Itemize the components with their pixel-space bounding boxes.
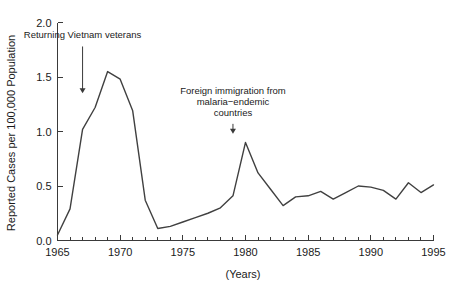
annotation-arrow-head-foreign-immigration bbox=[230, 129, 236, 134]
annotation-foreign-immigration: Foreign immigration frommalaria−endemicc… bbox=[180, 85, 286, 134]
x-axis-ticks bbox=[58, 235, 434, 241]
y-axis-tick-labels: 0.00.51.01.52.0 bbox=[36, 17, 51, 247]
malaria-incidence-line-chart: 0.00.51.01.52.0 196519701975198019851990… bbox=[0, 0, 457, 294]
x-tick-label-1990: 1990 bbox=[359, 246, 383, 258]
y-axis-ticks bbox=[58, 23, 63, 241]
x-axis-tick-labels: 1965197019751980198519901995 bbox=[45, 246, 445, 258]
x-tick-label-1980: 1980 bbox=[233, 246, 257, 258]
x-tick-label-1970: 1970 bbox=[108, 246, 132, 258]
annotation-label-foreign-immigration-line-2: countries bbox=[214, 107, 253, 118]
annotations: Returning Vietnam veteransForeign immigr… bbox=[24, 29, 286, 133]
x-tick-label-1995: 1995 bbox=[421, 246, 445, 258]
x-tick-label-1965: 1965 bbox=[45, 246, 69, 258]
x-tick-label-1985: 1985 bbox=[296, 246, 320, 258]
y-tick-label-0.5: 0.5 bbox=[36, 180, 51, 192]
annotation-label-vietnam-veterans-line-0: Returning Vietnam veterans bbox=[24, 29, 142, 40]
axes bbox=[58, 23, 434, 241]
x-axis-title: (Years) bbox=[225, 268, 260, 280]
y-axis-title: Reported Cases per 100,000 Population bbox=[5, 35, 17, 231]
chart-figure: 0.00.51.01.52.0 196519701975198019851990… bbox=[0, 0, 457, 294]
annotation-vietnam-veterans: Returning Vietnam veterans bbox=[24, 29, 142, 93]
annotation-label-foreign-immigration-line-1: malaria−endemic bbox=[197, 96, 270, 107]
annotation-label-foreign-immigration-line-0: Foreign immigration from bbox=[180, 85, 286, 96]
x-tick-label-1975: 1975 bbox=[171, 246, 195, 258]
y-tick-label-2.0: 2.0 bbox=[36, 17, 51, 29]
y-tick-label-1.5: 1.5 bbox=[36, 71, 51, 83]
y-tick-label-1.0: 1.0 bbox=[36, 126, 51, 138]
annotation-arrow-head-vietnam-veterans bbox=[80, 88, 86, 93]
